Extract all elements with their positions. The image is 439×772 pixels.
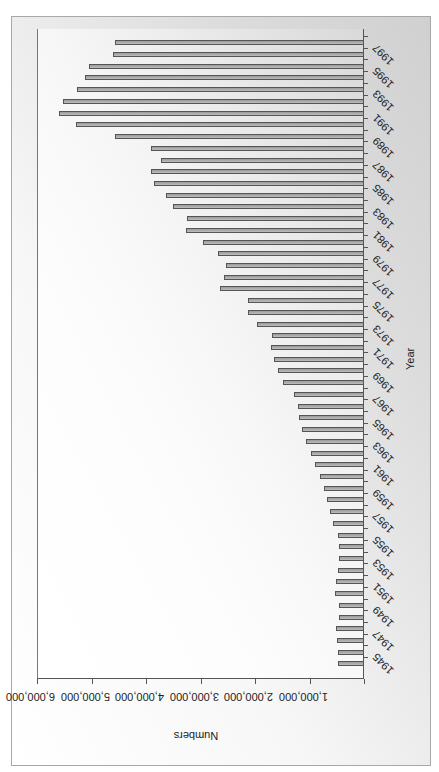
bar-1970 bbox=[278, 369, 364, 374]
x-tick bbox=[364, 141, 368, 142]
x-tick bbox=[364, 540, 368, 541]
x-tick bbox=[364, 306, 368, 307]
x-tick bbox=[364, 575, 368, 576]
x-tick bbox=[364, 200, 368, 201]
bar-1974 bbox=[257, 322, 364, 327]
bar-1969 bbox=[283, 380, 364, 385]
bar-1984 bbox=[173, 204, 364, 209]
x-tick bbox=[364, 446, 368, 447]
x-tick bbox=[364, 212, 368, 213]
x-tick bbox=[364, 294, 368, 295]
bar-1975 bbox=[248, 310, 364, 315]
x-tick bbox=[364, 458, 368, 459]
x-tick bbox=[364, 95, 368, 96]
bar-1977 bbox=[220, 286, 364, 291]
x-tick bbox=[364, 376, 368, 377]
x-tick bbox=[364, 505, 368, 506]
bar-1978 bbox=[224, 275, 364, 280]
bar-1961 bbox=[320, 474, 364, 479]
x-tick bbox=[364, 434, 368, 435]
x-axis-title: Year bbox=[404, 348, 416, 370]
x-tick bbox=[364, 528, 368, 529]
y-tick bbox=[146, 679, 147, 684]
x-tick bbox=[364, 282, 368, 283]
y-tick-label: 2,000,000 bbox=[224, 691, 284, 703]
bar-1993 bbox=[63, 99, 364, 104]
bar-1979 bbox=[226, 263, 364, 268]
bar-1994 bbox=[77, 87, 364, 92]
y-tick-label: 5,000,000 bbox=[61, 691, 121, 703]
y-tick bbox=[37, 679, 38, 684]
bar-1971 bbox=[274, 357, 364, 362]
bar-1955 bbox=[339, 544, 364, 549]
y-tick-label: 6,000,000 bbox=[6, 691, 66, 703]
bar-1952 bbox=[336, 579, 364, 584]
y-tick bbox=[201, 679, 202, 684]
bar-1954 bbox=[339, 556, 364, 561]
x-tick bbox=[364, 59, 368, 60]
bar-1996 bbox=[89, 64, 364, 69]
x-tick bbox=[364, 388, 368, 389]
bar-1950 bbox=[339, 603, 364, 608]
bar-1967 bbox=[298, 404, 364, 409]
x-tick bbox=[364, 610, 368, 611]
bar-1946 bbox=[338, 650, 364, 655]
x-tick bbox=[364, 341, 368, 342]
bar-1988 bbox=[161, 158, 364, 163]
x-tick bbox=[364, 645, 368, 646]
bar-1953 bbox=[338, 568, 364, 573]
bar-1960 bbox=[324, 486, 364, 491]
bar-1997 bbox=[113, 52, 364, 57]
x-tick bbox=[364, 259, 368, 260]
x-tick bbox=[364, 481, 368, 482]
x-tick bbox=[364, 423, 368, 424]
x-tick bbox=[364, 48, 368, 49]
bar-1962 bbox=[315, 462, 364, 467]
bar-1976 bbox=[248, 298, 364, 303]
x-tick bbox=[364, 329, 368, 330]
x-tick bbox=[364, 188, 368, 189]
x-tick bbox=[364, 399, 368, 400]
y-tick bbox=[255, 679, 256, 684]
x-tick bbox=[364, 247, 368, 248]
bar-1987 bbox=[151, 169, 364, 174]
y-axis-title: Numbers bbox=[174, 730, 219, 742]
bar-1981 bbox=[203, 240, 364, 245]
x-tick bbox=[364, 106, 368, 107]
bar-1998 bbox=[115, 40, 364, 45]
bar-1956 bbox=[338, 533, 364, 538]
bar-1948 bbox=[336, 626, 364, 631]
rotated-chart: Numbers Year 194519471949195119531955195… bbox=[0, 0, 439, 772]
bar-1972 bbox=[271, 345, 364, 350]
bar-1990 bbox=[115, 134, 364, 139]
bar-1986 bbox=[154, 181, 364, 186]
bar-1995 bbox=[85, 76, 364, 81]
x-tick bbox=[364, 130, 368, 131]
x-tick bbox=[364, 36, 368, 37]
y-tick bbox=[364, 679, 365, 684]
x-tick bbox=[364, 563, 368, 564]
x-tick bbox=[364, 153, 368, 154]
x-tick bbox=[364, 657, 368, 658]
x-tick bbox=[364, 587, 368, 588]
bar-1980 bbox=[218, 251, 364, 256]
bar-1973 bbox=[272, 333, 364, 338]
bar-1991 bbox=[76, 122, 364, 127]
x-tick bbox=[364, 517, 368, 518]
x-tick bbox=[364, 552, 368, 553]
bar-1989 bbox=[151, 146, 364, 151]
x-tick bbox=[364, 411, 368, 412]
bar-1949 bbox=[339, 615, 364, 620]
bar-1982 bbox=[186, 228, 364, 233]
x-tick bbox=[364, 118, 368, 119]
bar-1957 bbox=[333, 521, 364, 526]
x-tick bbox=[364, 177, 368, 178]
y-tick-label: 4,000,000 bbox=[115, 691, 175, 703]
x-tick bbox=[364, 493, 368, 494]
x-tick bbox=[364, 364, 368, 365]
y-tick-label: 1,000,000 bbox=[279, 691, 339, 703]
bar-1947 bbox=[337, 638, 364, 643]
x-tick bbox=[364, 83, 368, 84]
bar-1958 bbox=[330, 509, 364, 514]
x-tick bbox=[364, 470, 368, 471]
